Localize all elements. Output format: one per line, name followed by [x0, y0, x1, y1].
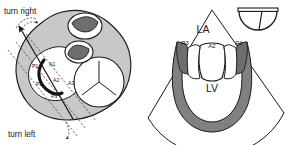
segment-label-a1: A1 — [49, 61, 55, 67]
commissure-left — [187, 45, 200, 79]
segment-label-a3: A3 — [68, 80, 74, 86]
mitral-valve-figure: P1 A1 A2 A3 P2 P3 turn right turn left — [0, 0, 302, 145]
chamber-label-lv: LV — [206, 82, 218, 94]
chamber-label-la: LA — [197, 23, 210, 35]
commissure-right — [224, 45, 237, 79]
echo-label-p3: P3 — [181, 39, 189, 46]
segment-label-p2: P2 — [36, 81, 42, 87]
segment-label-p1: P1 — [32, 63, 38, 69]
echo-label-a2: A2 — [208, 42, 216, 49]
segment-label-p3: P3 — [51, 93, 57, 99]
right-panel-group: LA LV P3 A2 P1 — [148, 8, 284, 145]
left-panel-group: P1 A1 A2 A3 P2 P3 turn right turn left — [4, 7, 131, 139]
echo-label-p1: P1 — [235, 39, 243, 46]
turn-right-label: turn right — [4, 7, 37, 16]
turn-left-arrow[interactable] — [66, 122, 69, 139]
turn-left-label: turn left — [8, 130, 36, 139]
transducer-icon — [238, 8, 278, 30]
segment-label-a2: A2 — [53, 77, 59, 83]
figure-root: P1 A1 A2 A3 P2 P3 turn right turn left — [0, 0, 302, 145]
